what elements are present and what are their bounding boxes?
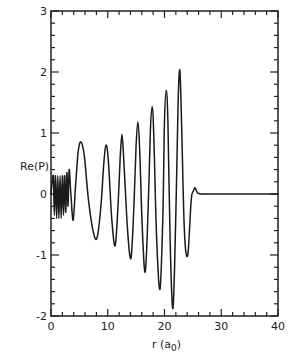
y-tick-label: 0 [40,188,47,201]
x-tick-label: 40 [271,320,285,333]
y-axis-label: Re(P) [20,160,49,173]
x-tick-label: 0 [48,320,55,333]
x-tick-label: 30 [214,320,228,333]
y-tick-label: 2 [40,66,47,79]
y-tick-label: -2 [36,310,47,323]
x-axis-label-main: r (a [152,338,171,351]
data-line-re-p [51,70,278,309]
x-tick-label: 10 [101,320,115,333]
chart: 010203040-2-10123 Re(P) r (a0) [0,0,294,355]
y-tick-label: 3 [40,5,47,18]
x-axis-label: r (a0) [152,338,181,353]
y-tick-label: 1 [40,127,47,140]
x-axis-label-close: ) [177,338,181,351]
y-tick-label: -1 [36,249,47,262]
x-tick-label: 20 [158,320,172,333]
